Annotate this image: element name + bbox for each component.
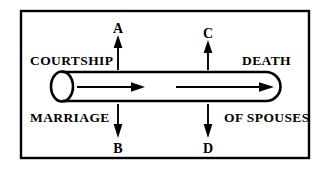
marriage-tube-diagram: COURTSHIP DEATH MARRIAGE OF SPOUSES A C … <box>0 0 329 171</box>
label-courtship: COURTSHIP <box>30 53 113 68</box>
diagram-canvas: COURTSHIP DEATH MARRIAGE OF SPOUSES A C … <box>0 0 329 171</box>
label-point-b: B <box>113 141 122 156</box>
label-death: DEATH <box>242 53 291 68</box>
label-marriage: MARRIAGE <box>30 110 110 125</box>
label-point-c: C <box>203 26 213 41</box>
label-point-d: D <box>203 141 213 156</box>
label-of-spouses: OF SPOUSES <box>224 110 310 125</box>
label-point-a: A <box>113 21 124 36</box>
